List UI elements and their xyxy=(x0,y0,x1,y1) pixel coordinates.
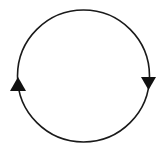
cycle-diagram xyxy=(0,0,165,156)
arrow-down-icon xyxy=(141,77,156,90)
cycle-loop xyxy=(18,10,150,142)
arrow-up-icon xyxy=(10,77,26,91)
